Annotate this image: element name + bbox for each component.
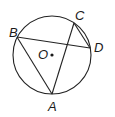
point-label-c: C <box>75 8 85 23</box>
chord-ac <box>52 23 74 94</box>
chord-cd <box>74 23 90 48</box>
chord-bd <box>17 37 90 48</box>
point-label-d: D <box>94 40 103 55</box>
point-labels: ABCD <box>9 8 103 114</box>
chord-ba <box>17 37 52 94</box>
center-point <box>50 53 53 56</box>
center-label: O <box>38 47 48 62</box>
circle-diagram: O ABCD <box>0 0 115 117</box>
point-label-a: A <box>47 99 57 114</box>
point-label-b: B <box>9 25 18 40</box>
